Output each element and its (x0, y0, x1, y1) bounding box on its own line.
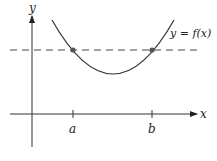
tick-label-b: b (148, 122, 156, 136)
curve-f (52, 20, 174, 74)
curve-label: y = f(x) (169, 27, 211, 40)
function-graph: y x y = f(x) a b (0, 0, 217, 161)
tick-label-a: a (69, 122, 76, 136)
intersection-point-b (149, 47, 154, 52)
x-axis-label: x (200, 107, 207, 121)
y-axis-label: y (28, 1, 36, 15)
intersection-point-a (70, 47, 75, 52)
